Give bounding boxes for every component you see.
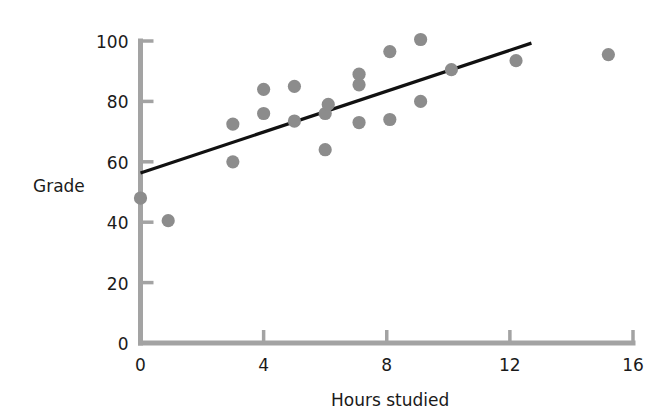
data-point xyxy=(319,143,332,156)
y-axis-title: Grade xyxy=(33,176,85,196)
data-point xyxy=(226,117,239,130)
data-point xyxy=(226,155,239,168)
y-tick-label: 80 xyxy=(83,92,129,112)
data-point xyxy=(602,48,615,61)
y-tick-label: 20 xyxy=(83,274,129,294)
scatter-chart: Grade Hours studied 020406080100 0481216 xyxy=(0,0,669,420)
y-tick-label: 60 xyxy=(83,153,129,173)
data-point xyxy=(414,33,427,46)
y-tick-label: 40 xyxy=(83,213,129,233)
data-point xyxy=(257,83,270,96)
data-points-group xyxy=(134,33,615,227)
trendline xyxy=(141,43,532,173)
x-tick-label: 0 xyxy=(121,355,161,375)
data-point xyxy=(288,114,301,127)
data-point xyxy=(414,95,427,108)
data-point xyxy=(162,214,175,227)
axes-group xyxy=(141,41,634,343)
y-tick-label: 100 xyxy=(83,32,129,52)
x-tick-label: 12 xyxy=(490,355,530,375)
data-point xyxy=(134,191,147,204)
data-point xyxy=(352,116,365,129)
data-point xyxy=(383,113,396,126)
chart-canvas xyxy=(0,0,669,420)
x-tick-label: 8 xyxy=(367,355,407,375)
x-tick-label: 4 xyxy=(244,355,284,375)
data-point xyxy=(383,45,396,58)
trendline-path xyxy=(141,43,532,173)
data-point xyxy=(322,98,335,111)
data-point xyxy=(352,68,365,81)
data-point xyxy=(509,54,522,67)
tick-marks-group xyxy=(141,41,634,343)
data-point xyxy=(257,107,270,120)
y-tick-label: 0 xyxy=(83,334,129,354)
x-axis-title: Hours studied xyxy=(331,390,449,410)
x-tick-label: 16 xyxy=(613,355,653,375)
data-point xyxy=(445,63,458,76)
data-point xyxy=(288,80,301,93)
